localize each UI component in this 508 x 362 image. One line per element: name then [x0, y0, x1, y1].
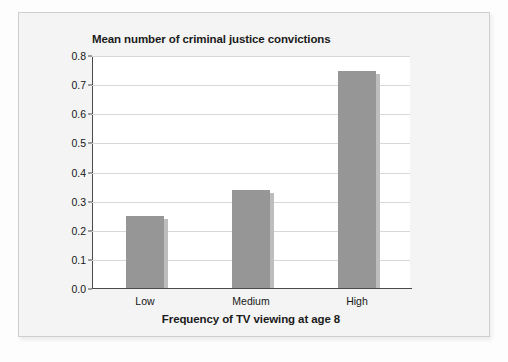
bar	[338, 71, 376, 289]
y-tick-label: 0.4	[71, 167, 86, 179]
x-tick-label: Low	[135, 295, 154, 307]
bar-slot: Medium	[198, 56, 304, 289]
bar	[126, 216, 164, 289]
x-tick-label: Medium	[232, 295, 269, 307]
x-tick-label: High	[346, 295, 368, 307]
bar-shadow	[270, 193, 274, 289]
figure-panel: Mean number of criminal justice convicti…	[18, 12, 490, 337]
y-tick-label: 0.6	[71, 108, 86, 120]
y-tick-label: 0.5	[71, 137, 86, 149]
y-tick-label: 0.0	[71, 283, 86, 295]
bar-shadow	[164, 219, 168, 289]
bar-slot: Low	[92, 56, 198, 289]
y-tick-label: 0.1	[71, 254, 86, 266]
y-tick-label: 0.2	[71, 225, 86, 237]
plot-region: 0.00.10.20.30.40.50.60.70.8 LowMediumHig…	[92, 56, 410, 289]
x-axis-line	[92, 288, 412, 290]
x-axis-title: Frequency of TV viewing at age 8	[92, 313, 410, 325]
y-tick-label: 0.3	[71, 196, 86, 208]
bar	[232, 190, 270, 289]
y-tick-label: 0.7	[71, 79, 86, 91]
bar-slot: High	[304, 56, 410, 289]
chart-title: Mean number of criminal justice convicti…	[92, 33, 331, 45]
bar-shadow	[376, 74, 380, 289]
y-tick-label: 0.8	[71, 50, 86, 62]
scanned-page: Mean number of criminal justice convicti…	[0, 0, 508, 362]
